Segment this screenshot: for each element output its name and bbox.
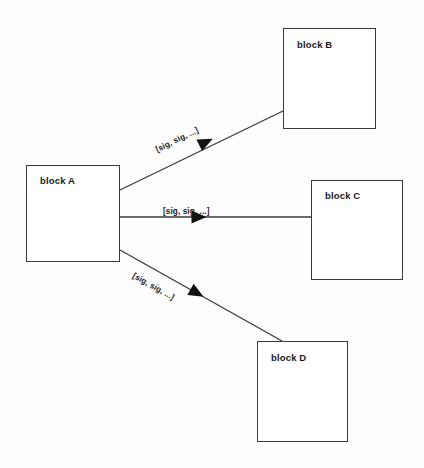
- block-label-c: block C: [325, 190, 360, 201]
- connection-label-a-to-b: [sig, sig, ...]: [154, 126, 200, 154]
- connection-line-a-to-d: [120, 250, 282, 341]
- connection-label-a-to-d: [sig, sig, ...]: [131, 271, 176, 302]
- arrowhead-a-to-d: [187, 284, 206, 303]
- diagram-canvas: block A block B block C block D [sig, si…: [0, 0, 424, 468]
- arrowhead-a-to-b: [196, 133, 215, 151]
- block-label-b: block B: [297, 39, 332, 50]
- connection-line-a-to-b: [120, 111, 283, 190]
- connection-label-a-to-c: [sig, sig, ...]: [163, 207, 210, 216]
- block-label-a: block A: [40, 175, 75, 186]
- block-label-d: block D: [271, 352, 306, 363]
